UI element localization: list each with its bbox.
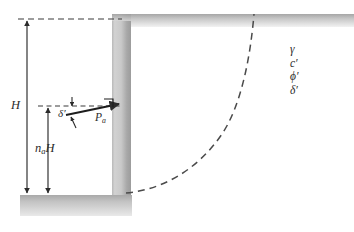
label-wall-friction-angle-delta: δ′ xyxy=(58,108,66,119)
delta-prime-mark: ′ xyxy=(63,107,65,119)
label-wall-height-H: H xyxy=(11,99,20,112)
figure-canvas: H naH δ′ Pa γ c′ ϕ′ δ′ xyxy=(0,0,354,232)
wall-cap-shading xyxy=(112,14,131,21)
soil-property-cohesion: c′ xyxy=(290,58,298,70)
naH-suffix: H xyxy=(46,141,55,155)
unit-weight-symbol: γ xyxy=(290,43,295,55)
soil-property-friction-angle: ϕ′ xyxy=(290,71,298,83)
soil-property-wall-friction: δ′ xyxy=(290,85,298,97)
Pa-symbol: P xyxy=(95,111,102,123)
retaining-wall-shading xyxy=(112,14,131,206)
diagram-svg xyxy=(0,0,354,232)
label-resultant-depth-naH: naH xyxy=(35,142,55,156)
wall-friction-prime: ′ xyxy=(295,84,298,96)
failure-surface-dashed-curve xyxy=(126,14,254,193)
delta-angle-lower-tick xyxy=(71,117,76,128)
soil-property-unit-weight: γ xyxy=(290,44,298,56)
backfill-surface-shading xyxy=(128,14,354,27)
label-active-thrust-Pa: Pa xyxy=(95,112,106,125)
Pa-subscript: a xyxy=(102,116,106,125)
foundation-ground-shading xyxy=(20,195,132,216)
friction-angle-prime: ′ xyxy=(296,70,299,82)
soil-properties-list: γ c′ ϕ′ δ′ xyxy=(290,44,298,96)
cohesion-prime: ′ xyxy=(295,57,298,69)
